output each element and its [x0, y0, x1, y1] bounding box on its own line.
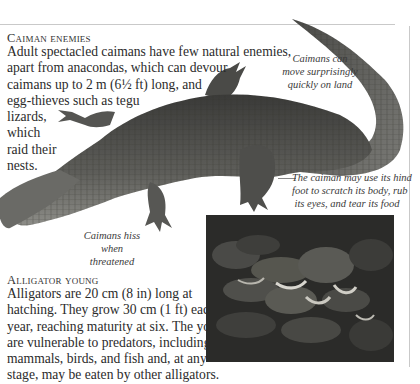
caption-move-on-land: Caimans can move surprisingly quickly on…: [265, 52, 375, 91]
text-line: egg-thieves such as tegu: [7, 93, 291, 109]
alligator-young-text: Alligators are 20 cm (8 in) long at hatc…: [7, 286, 230, 384]
text-line: nests.: [7, 158, 291, 174]
text-line: Adult spectacled caimans have few natura…: [7, 44, 291, 60]
text-line: which: [7, 125, 291, 141]
text-line: mammals, birds, and fish and, at any: [7, 351, 230, 367]
text-line: apart from anacondas, which can devour: [7, 60, 291, 76]
text-line: stage, may be eaten by other alligators.: [7, 367, 230, 383]
text-line: caimans up to 2 m (6½ ft) long, and: [7, 77, 291, 93]
text-line: raid their: [7, 142, 291, 158]
text-line: are vulnerable to predators, including: [7, 335, 230, 351]
caiman-enemies-text: Adult spectacled caimans have few natura…: [7, 44, 291, 174]
caption-hiss: Caimans hiss when threatened: [72, 229, 152, 268]
text-line: hatching. They grow 30 cm (1 ft) each: [7, 302, 230, 318]
caption-hind-foot: The caiman may use its hind foot to scra…: [292, 171, 402, 210]
text-line: lizards,: [7, 109, 291, 125]
alligator-hatchlings-photo: [206, 215, 394, 362]
text-line: year, reaching maturity at six. The youn…: [7, 319, 230, 335]
text-line: Alligators are 20 cm (8 in) long at: [7, 286, 230, 302]
